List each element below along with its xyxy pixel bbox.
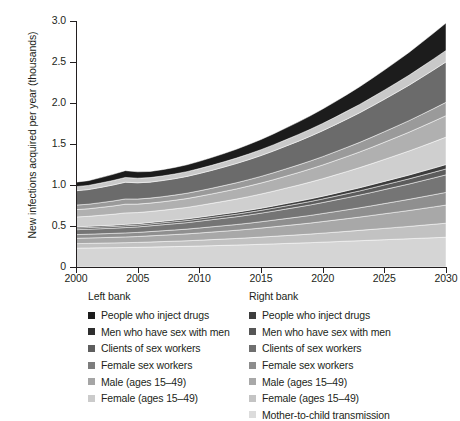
legend-title-right-bank: Right bank <box>249 290 454 302</box>
legend-item-label: Male (ages 15–49) <box>101 376 186 388</box>
legend-items-left-bank: People who inject drugsMen who have sex … <box>88 307 248 407</box>
chart-area: 00.51.01.52.02.53.0 20002005201020152020… <box>0 0 460 290</box>
legend-item-label: Female (ages 15–49) <box>101 392 198 404</box>
legend-item-label: Clients of sex workers <box>101 342 200 354</box>
legend-item[interactable]: Female sex workers <box>249 357 454 374</box>
legend-item-label: Male (ages 15–49) <box>262 376 347 388</box>
legend-item-label: Clients of sex workers <box>262 342 361 354</box>
y-tick-mark <box>70 144 76 145</box>
y-tick-mark <box>70 185 76 186</box>
legend-item[interactable]: Female sex workers <box>88 357 248 374</box>
legend-item[interactable]: Male (ages 15–49) <box>88 373 248 390</box>
x-tick-label: 2000 <box>54 273 98 284</box>
plot-area <box>76 21 446 267</box>
legend-item-label: People who inject drugs <box>101 309 209 321</box>
legend-swatch-icon <box>88 312 95 319</box>
legend-item-label: Mother-to-child transmission <box>262 409 390 421</box>
y-tick-label: 0 <box>30 261 66 272</box>
legend-item[interactable]: Men who have sex with men <box>249 324 454 341</box>
legend-swatch-icon <box>88 378 95 385</box>
y-axis-title: New infections acquired per year (thousa… <box>26 10 38 260</box>
legend-item-label: Men who have sex with men <box>101 326 230 338</box>
legend-swatch-icon <box>88 328 95 335</box>
x-tick-label: 2025 <box>362 273 406 284</box>
legend-swatch-icon <box>249 312 256 319</box>
legend-item-label: Female (ages 15–49) <box>262 392 359 404</box>
legend-swatch-icon <box>88 395 95 402</box>
x-tick-label: 2020 <box>301 273 345 284</box>
legend-item-label: Female sex workers <box>101 359 192 371</box>
x-tick-label: 2010 <box>177 273 221 284</box>
legend-item[interactable]: People who inject drugs <box>249 307 454 324</box>
y-tick-mark <box>70 62 76 63</box>
stacked-area-svg <box>76 21 446 267</box>
legend-item[interactable]: Clients of sex workers <box>88 340 248 357</box>
y-axis-line <box>76 21 77 268</box>
legend-item-label: Female sex workers <box>262 359 353 371</box>
legend-column-left-bank: Left bank People who inject drugsMen who… <box>88 290 248 407</box>
legend-item[interactable]: Clients of sex workers <box>249 340 454 357</box>
legend-column-right-bank: Right bank People who inject drugsMen wh… <box>249 290 454 421</box>
legend-item[interactable]: People who inject drugs <box>88 307 248 324</box>
legend-swatch-icon <box>249 345 256 352</box>
legend-title-left-bank: Left bank <box>88 290 248 302</box>
legend-swatch-icon <box>249 378 256 385</box>
legend-item-label: People who inject drugs <box>262 309 370 321</box>
x-tick-label: 2030 <box>424 273 460 284</box>
y-tick-mark <box>70 21 76 22</box>
figure-stacked-area-new-infections: 00.51.01.52.02.53.0 20002005201020152020… <box>0 0 460 421</box>
legend-swatch-icon <box>249 362 256 369</box>
x-tick-label: 2015 <box>239 273 283 284</box>
legend-swatch-icon <box>88 362 95 369</box>
y-tick-mark <box>70 103 76 104</box>
legend-item[interactable]: Male (ages 15–49) <box>249 373 454 390</box>
legend-item[interactable]: Female (ages 15–49) <box>249 390 454 407</box>
legend-swatch-icon <box>249 395 256 402</box>
y-tick-mark <box>70 226 76 227</box>
x-tick-label: 2005 <box>116 273 160 284</box>
legend-item-label: Men who have sex with men <box>262 326 391 338</box>
legend-item[interactable]: Men who have sex with men <box>88 324 248 341</box>
legend-item[interactable]: Mother-to-child transmission <box>249 407 454 421</box>
legend-swatch-icon <box>88 345 95 352</box>
legend-items-right-bank: People who inject drugsMen who have sex … <box>249 307 454 421</box>
legend-swatch-icon <box>249 411 256 418</box>
legend-swatch-icon <box>249 328 256 335</box>
legend: Left bank People who inject drugsMen who… <box>0 290 460 421</box>
legend-item[interactable]: Female (ages 15–49) <box>88 390 248 407</box>
